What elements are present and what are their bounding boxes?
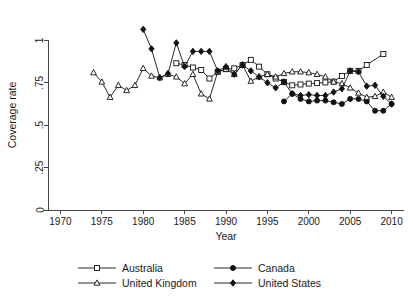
coverage-rate-line-chart: 0.25.5.751197019751980198519901995200020… <box>0 0 413 298</box>
y-axis-title: Coverage rate <box>6 82 18 149</box>
plot-area: 0.25.5.751197019751980198519901995200020… <box>35 26 405 227</box>
open-triangle-marker <box>248 78 254 83</box>
filled-circle-marker <box>373 108 378 113</box>
open-triangle-marker <box>372 93 378 98</box>
x-tick-label: 1970 <box>49 216 72 227</box>
x-tick-label: 1990 <box>215 216 238 227</box>
data-series <box>91 26 395 113</box>
open-triangle-marker <box>389 94 395 99</box>
open-square-marker <box>174 61 179 66</box>
filled-diamond-marker <box>207 48 212 54</box>
legend-item-australia[interactable]: Australia <box>78 262 163 274</box>
filled-circle-marker <box>231 266 236 271</box>
open-square-marker <box>323 80 328 85</box>
open-square-marker <box>95 266 100 271</box>
open-square-marker <box>381 51 386 56</box>
legend-item-united-states[interactable]: United States <box>214 277 321 289</box>
series-path <box>143 29 391 104</box>
y-tick-label: .75 <box>35 75 46 89</box>
open-square-marker <box>339 73 344 78</box>
filled-diamond-marker <box>199 48 204 54</box>
open-square-marker <box>315 81 320 86</box>
filled-circle-marker <box>339 101 344 106</box>
open-triangle-marker <box>140 65 146 70</box>
filled-diamond-marker <box>141 26 146 32</box>
open-triangle-marker <box>190 71 196 76</box>
open-triangle-marker <box>356 90 362 95</box>
filled-diamond-marker <box>273 85 278 91</box>
open-triangle-marker <box>91 69 97 74</box>
legend-label: Australia <box>122 262 163 274</box>
filled-diamond-marker <box>265 80 270 86</box>
filled-diamond-marker <box>314 92 319 98</box>
open-square-marker <box>298 82 303 87</box>
filled-circle-marker <box>381 108 386 113</box>
open-square-marker <box>207 76 212 81</box>
x-tick-label: 2010 <box>380 216 403 227</box>
chart-legend: AustraliaCanadaUnited KingdomUnited Stat… <box>78 262 321 289</box>
x-tick-label: 1985 <box>173 216 196 227</box>
filled-diamond-marker <box>174 40 179 46</box>
x-tick-label: 2000 <box>298 216 321 227</box>
x-tick-label: 1995 <box>256 216 279 227</box>
open-square-marker <box>232 66 237 71</box>
open-square-marker <box>257 64 262 69</box>
filled-diamond-marker <box>323 92 328 98</box>
series-path <box>94 65 392 99</box>
filled-diamond-marker <box>339 86 344 92</box>
filled-circle-marker <box>281 99 286 104</box>
open-square-marker <box>364 62 369 67</box>
y-tick-label: 0 <box>35 207 46 213</box>
filled-circle-marker <box>356 96 361 101</box>
x-tick-label: 2005 <box>339 216 362 227</box>
open-square-marker <box>290 83 295 88</box>
filled-circle-marker <box>306 99 311 104</box>
filled-diamond-marker <box>230 280 235 286</box>
axes: 0.25.5.751197019751980198519901995200020… <box>35 37 405 227</box>
y-tick-label: 1 <box>35 37 46 43</box>
filled-diamond-marker <box>364 83 369 89</box>
open-square-marker <box>306 81 311 86</box>
x-tick-label: 1980 <box>132 216 155 227</box>
series-australia <box>174 51 386 87</box>
legend-item-canada[interactable]: Canada <box>214 262 295 274</box>
filled-diamond-marker <box>306 91 311 97</box>
filled-diamond-marker <box>331 89 336 95</box>
open-triangle-marker <box>198 91 204 96</box>
legend-label: United Kingdom <box>122 277 197 289</box>
filled-diamond-marker <box>190 48 195 54</box>
filled-diamond-marker <box>248 68 253 74</box>
y-tick-label: .5 <box>35 121 46 130</box>
x-tick-label: 1975 <box>91 216 114 227</box>
open-triangle-marker <box>132 82 138 87</box>
legend-item-united-kingdom[interactable]: United Kingdom <box>78 277 197 289</box>
y-tick-label: .25 <box>35 160 46 174</box>
x-axis-title: Year <box>215 230 237 242</box>
open-triangle-marker <box>207 96 213 101</box>
open-triangle-marker <box>347 85 353 90</box>
open-triangle-marker <box>116 82 122 87</box>
open-square-marker <box>199 68 204 73</box>
legend-label: Canada <box>258 262 295 274</box>
open-triangle-marker <box>124 87 130 92</box>
open-square-marker <box>190 65 195 70</box>
chart-figure: 0.25.5.751197019751980198519901995200020… <box>0 0 413 298</box>
legend-label: United States <box>258 277 321 289</box>
filled-circle-marker <box>331 100 336 105</box>
filled-circle-marker <box>348 96 353 101</box>
filled-diamond-marker <box>149 46 154 52</box>
open-square-marker <box>248 57 253 62</box>
